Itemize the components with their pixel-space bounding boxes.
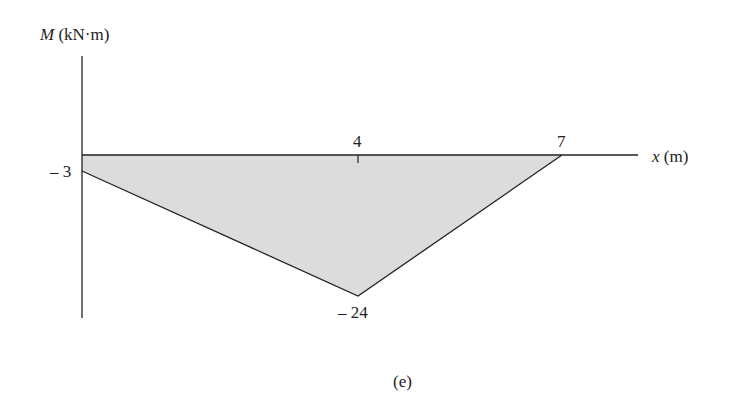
- y-axis-label: M (kN·m): [39, 25, 109, 44]
- tick-label-4: 4: [353, 132, 362, 151]
- moment-area-fill: [82, 155, 562, 296]
- value-label-left: – 3: [49, 162, 71, 181]
- x-axis-label: x (m): [651, 147, 688, 166]
- tick-label-7: 7: [557, 132, 566, 151]
- figure-caption: (e): [393, 372, 412, 391]
- value-label-min: – 24: [337, 303, 368, 322]
- moment-diagram: M (kN·m) x (m) – 3 4 7 – 24 (e): [0, 0, 733, 411]
